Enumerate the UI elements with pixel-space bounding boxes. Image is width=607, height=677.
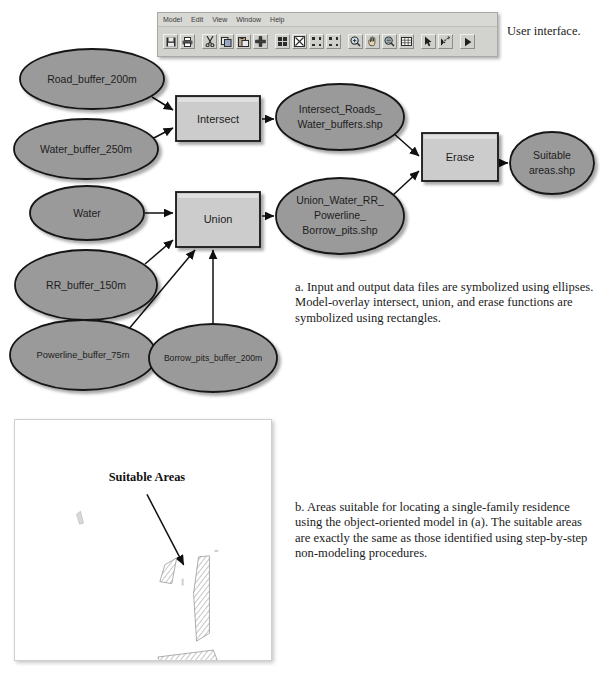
output-union-label-line1: Union_Water_RR_ — [296, 194, 384, 206]
output-intersect-label-line1: Intersect_Roads_ — [299, 103, 381, 115]
model-diagram: Intersect Union Erase Road_buffer_200m W… — [0, 0, 607, 400]
process-erase[interactable]: Erase — [422, 133, 498, 181]
caption-b: b. Areas suitable for locating a single-… — [295, 500, 595, 562]
edge-unionout-to-erase — [392, 171, 419, 196]
output-union-label-line3: Borrow_pits.shp — [302, 224, 377, 236]
process-intersect-label: Intersect — [197, 113, 239, 125]
input-road-buffer[interactable]: Road_buffer_200m — [20, 49, 164, 109]
caption-a: a. Input and output data files are symbo… — [295, 280, 595, 326]
suitable-polygon-left — [160, 558, 177, 584]
output-suitable-label-line2: areas.shp — [529, 164, 575, 176]
suitable-areas-map[interactable]: Suitable Areas — [14, 419, 272, 661]
input-road-buffer-label: Road_buffer_200m — [47, 73, 137, 85]
map-annotation-arrow — [147, 494, 184, 564]
output-union-label-line2: Powerline_ — [314, 209, 366, 221]
input-water-buffer-label: Water_buffer_250m — [40, 143, 132, 155]
input-water[interactable]: Water — [30, 186, 144, 240]
output-union[interactable]: Union_Water_RR_ Powerline_ Borrow_pits.s… — [276, 178, 404, 254]
suitable-polygon-main — [194, 556, 210, 641]
process-erase-label: Erase — [446, 151, 475, 163]
output-intersect[interactable]: Intersect_Roads_ Water_buffers.shp — [276, 84, 404, 150]
process-union[interactable]: Union — [176, 192, 260, 247]
input-water-label: Water — [73, 207, 101, 219]
input-rr-buffer[interactable]: RR_buffer_150m — [15, 250, 157, 320]
map-graphic: Suitable Areas — [15, 420, 271, 660]
input-rr-buffer-label: RR_buffer_150m — [46, 279, 126, 291]
input-borrow-pits-buffer[interactable]: Borrow_pits_buffer_200m — [149, 324, 277, 392]
suitable-polygon-speck — [77, 511, 84, 524]
suitable-polygon-lower — [158, 650, 219, 660]
input-powerline-buffer[interactable]: Powerline_buffer_75m — [10, 320, 156, 390]
process-union-label: Union — [204, 213, 233, 225]
map-title: Suitable Areas — [109, 470, 186, 484]
edge-intersectout-to-erase — [392, 132, 419, 156]
edge-road-to-intersect — [152, 97, 173, 110]
output-suitable-label-line1: Suitable — [533, 149, 571, 161]
output-suitable-areas[interactable]: Suitable areas.shp — [510, 132, 594, 194]
edge-rr-to-union — [145, 240, 173, 264]
input-powerline-buffer-label: Powerline_buffer_75m — [37, 350, 130, 360]
map-faint-mark-b — [214, 550, 218, 552]
input-water-buffer[interactable]: Water_buffer_250m — [14, 119, 158, 179]
input-borrow-pits-buffer-label: Borrow_pits_buffer_200m — [164, 353, 262, 363]
output-intersect-label-line2: Water_buffers.shp — [297, 118, 382, 130]
process-intersect[interactable]: Intersect — [176, 96, 260, 141]
map-faint-mark-a — [182, 579, 184, 586]
